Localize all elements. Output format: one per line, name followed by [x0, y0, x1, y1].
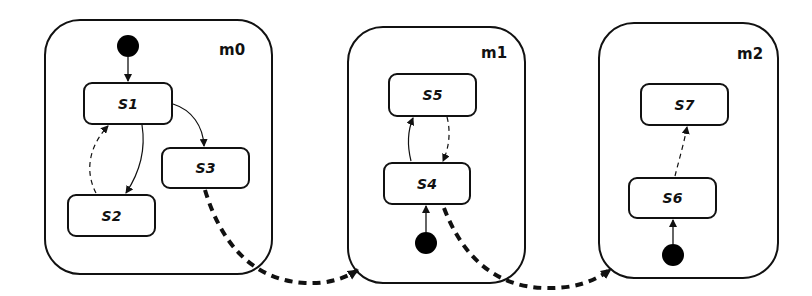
- initial-state-m1-icon: [415, 232, 437, 254]
- module-label-m2: m2: [737, 45, 763, 63]
- state-s3: S3: [161, 147, 250, 189]
- state-machine-diagram: m0 m1 m2 S1 S2 S3 S5 S4 S7 S6: [0, 0, 812, 296]
- state-label-s2: S2: [102, 208, 122, 224]
- state-label-s3: S3: [196, 160, 216, 176]
- state-label-s1: S1: [118, 96, 138, 112]
- state-label-s7: S7: [675, 97, 695, 113]
- state-label-s4: S4: [417, 176, 437, 192]
- module-m2: m2: [598, 22, 779, 279]
- initial-state-m2-icon: [662, 244, 684, 266]
- state-label-s5: S5: [423, 87, 443, 103]
- state-s7: S7: [640, 83, 729, 126]
- initial-state-m0-icon: [117, 35, 139, 57]
- state-s5: S5: [388, 73, 477, 117]
- state-s4: S4: [383, 162, 471, 205]
- state-s6: S6: [628, 177, 717, 219]
- state-label-s6: S6: [663, 190, 683, 206]
- module-label-m0: m0: [219, 41, 245, 59]
- state-s1: S1: [83, 82, 173, 125]
- state-s2: S2: [67, 194, 156, 237]
- module-label-m1: m1: [481, 44, 507, 62]
